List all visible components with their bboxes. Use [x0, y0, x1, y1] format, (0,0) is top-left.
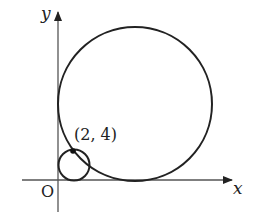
point-marker: [70, 148, 76, 154]
y-axis-label: y: [40, 3, 51, 23]
point-label: (2, 4): [74, 125, 117, 144]
small-circle: [59, 150, 90, 181]
origin-label: O: [41, 182, 54, 201]
diagram-canvas: (2, 4) y x O: [0, 0, 266, 221]
large-circle: [58, 27, 212, 181]
x-axis-label: x: [233, 178, 243, 198]
